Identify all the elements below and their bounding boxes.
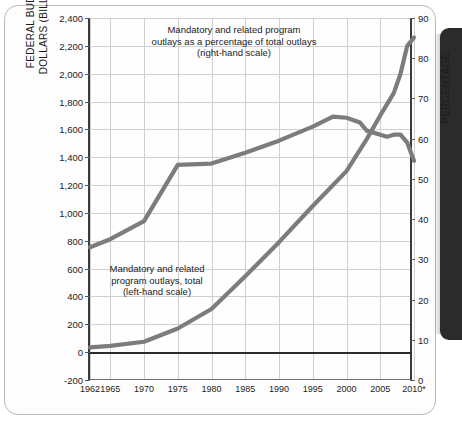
y-axis-tick-label: 200 <box>67 319 83 330</box>
annotation-percentage-line1: Mandatory and related program <box>114 24 354 36</box>
series-line-percentage <box>90 117 414 248</box>
y-axis-tick-label: 2,000 <box>59 68 83 79</box>
y2-axis-tick-label: 70 <box>418 93 429 104</box>
y-axis-tick-label: 400 <box>67 291 83 302</box>
y2-axis-title: PERCENTAGE <box>440 18 451 158</box>
annotation-percentage-line2: outlays as a percentage of total outlays <box>114 36 354 48</box>
annotation-dollars-line2: program outlays, total <box>82 275 232 287</box>
gridline-vertical <box>414 18 415 379</box>
y-axis-tick-label: 2,400 <box>59 13 83 24</box>
y2-axis-tick-label: 0 <box>418 375 423 386</box>
y-axis-title: FEDERAL BUDGET DOLLARS (BILLIONS) <box>24 0 50 96</box>
y-axis-tick-label: -200 <box>64 375 83 386</box>
series-line-dollars <box>90 37 414 347</box>
x-axis-tick-label: 1980 <box>201 384 221 394</box>
y2-axis-tick-label: 30 <box>418 254 429 265</box>
x-axis-tick-label: 2010* <box>402 384 426 394</box>
y2-axis-tick <box>410 380 415 381</box>
y2-axis-tick-label: 40 <box>418 214 429 225</box>
annotation-dollars-line3: (left-hand scale) <box>82 286 232 298</box>
y2-axis-tick-label: 80 <box>418 53 429 64</box>
annotation-percentage-line3: (right-hand scale) <box>114 47 354 59</box>
y-axis-tick-label: 1,200 <box>59 180 83 191</box>
y-axis-tick-label: 1,800 <box>59 96 83 107</box>
x-axis-tick-label: 1995 <box>303 384 323 394</box>
annotation-dollars: Mandatory and related program outlays, t… <box>82 263 232 298</box>
x-axis-tick-label: 1962 <box>80 384 100 394</box>
y2-axis-tick-label: 20 <box>418 294 429 305</box>
x-axis-tick-label: 1985 <box>235 384 255 394</box>
x-axis-tick-label: 1965 <box>100 384 120 394</box>
y-axis-tick-label: 0 <box>78 347 83 358</box>
y-axis-title-line2: DOLLARS (BILLIONS) <box>37 0 50 96</box>
y-axis-tick-label: 1,400 <box>59 152 83 163</box>
y2-axis-tick-label: 50 <box>418 173 429 184</box>
chart-page: FEDERAL BUDGET DOLLARS (BILLIONS) PERCEN… <box>0 0 462 424</box>
y-axis-tick-label: 600 <box>67 263 83 274</box>
y2-axis-tick-label: 90 <box>418 13 429 24</box>
annotation-dollars-line1: Mandatory and related <box>82 263 232 275</box>
y-axis-tick <box>85 380 90 381</box>
x-axis-tick-label: 1990 <box>269 384 289 394</box>
plot-area: 1962196519701975198019851990199520002005… <box>88 18 412 380</box>
x-axis-tick-label: 1970 <box>134 384 154 394</box>
series-layer <box>90 18 414 380</box>
x-axis-tick-label: 1975 <box>168 384 188 394</box>
x-axis-tick-label: 2005 <box>370 384 390 394</box>
y-axis-tick-label: 1,600 <box>59 124 83 135</box>
y2-axis-tick-label: 60 <box>418 133 429 144</box>
x-axis-tick-label: 2000 <box>336 384 356 394</box>
y-axis-title-line1: FEDERAL BUDGET <box>24 0 37 96</box>
plot-wrapper: 1962196519701975198019851990199520002005… <box>88 18 412 380</box>
y-axis-tick-label: 2,200 <box>59 40 83 51</box>
y-axis-tick-label: 1,000 <box>59 207 83 218</box>
annotation-percentage: Mandatory and related program outlays as… <box>114 24 354 59</box>
y2-axis-tick-label: 10 <box>418 334 429 345</box>
y-axis-tick-label: 800 <box>67 235 83 246</box>
